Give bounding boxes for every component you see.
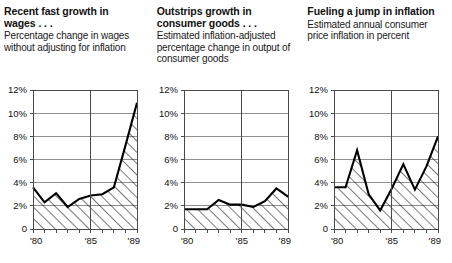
y-tick-label: 2% [315, 200, 329, 211]
y-tick-label: 2% [13, 200, 27, 211]
y-tick-label: 8% [164, 131, 178, 142]
y-tick-label: 10% [309, 108, 329, 119]
panel-subtitle: Percentage change in wages without adjus… [4, 30, 141, 53]
y-axis-labels-2: 02%4%6%8%10%12% [159, 84, 184, 234]
area-fill [33, 103, 137, 229]
chart-panel-consumer-goods: Outstrips growth in consumer goods . . .… [151, 0, 302, 263]
x-tick-label: '80 [181, 235, 193, 246]
y-axis-labels-3: 02%4%6%8%10%12% [309, 84, 334, 234]
series-area-1 [33, 103, 137, 229]
chart-area-consumer-goods: 02%4%6%8%10%12% '80'85'89 [151, 84, 302, 263]
y-tick-label: 4% [315, 177, 329, 188]
x-tick-label: '89 [128, 235, 140, 246]
x-tick-label: '80 [30, 235, 42, 246]
y-tick-label: 0 [323, 223, 328, 234]
y-tick-label: 6% [315, 154, 329, 165]
chart-panel-group: Recent fast growth in wages . . . Percen… [0, 0, 452, 263]
panel-title: Outstrips growth in consumer goods . . . [157, 6, 292, 29]
chart-area-inflation: 02%4%6%8%10%12% '80'85'89 [301, 84, 452, 263]
series-area-2 [184, 188, 288, 229]
panel-subtitle: Estimated inflation-adjusted percentage … [157, 30, 292, 64]
chart-panel-inflation: Fueling a jump in inflation Estimated an… [301, 0, 452, 263]
y-axis-labels-1: 02%4%6%8%10%12% [8, 84, 33, 234]
y-tick-label: 12% [309, 84, 329, 95]
x-axis-labels-1: '80'85'89 [30, 229, 140, 246]
x-axis-labels-2: '80'85'89 [181, 229, 291, 246]
y-tick-label: 6% [13, 154, 27, 165]
panel-title: Fueling a jump in inflation [307, 6, 442, 18]
x-tick-label: '89 [278, 235, 290, 246]
y-tick-label: 4% [13, 177, 27, 188]
y-tick-label: 10% [159, 108, 179, 119]
x-axis-labels-3: '80'85'89 [331, 229, 441, 246]
y-tick-label: 0 [22, 223, 27, 234]
chart-area-wages: 02%4%6%8%10%12% '80'85'89 [0, 84, 151, 263]
figure-root: Recent fast growth in wages . . . Percen… [0, 0, 452, 263]
panel-title: Recent fast growth in wages . . . [4, 6, 141, 29]
y-tick-label: 6% [164, 154, 178, 165]
x-tick-label: '85 [235, 235, 247, 246]
y-tick-label: 8% [315, 131, 329, 142]
panel-heading-wages: Recent fast growth in wages . . . Percen… [0, 0, 151, 53]
y-tick-label: 0 [172, 223, 177, 234]
y-tick-label: 8% [13, 131, 27, 142]
y-tick-label: 12% [8, 84, 28, 95]
chart-panel-wages: Recent fast growth in wages . . . Percen… [0, 0, 151, 263]
x-tick-label: '85 [85, 235, 97, 246]
panel-heading-inflation: Fueling a jump in inflation Estimated an… [301, 0, 452, 41]
y-tick-label: 2% [164, 200, 178, 211]
x-tick-label: '80 [331, 235, 343, 246]
y-tick-label: 10% [8, 108, 28, 119]
chart-svg-consumer-goods: 02%4%6%8%10%12% '80'85'89 [151, 84, 301, 263]
panel-subtitle: Estimated annual consumer price inflatio… [307, 19, 442, 42]
y-tick-label: 12% [159, 84, 179, 95]
panel-heading-consumer-goods: Outstrips growth in consumer goods . . .… [151, 0, 302, 64]
y-tick-label: 4% [164, 177, 178, 188]
x-tick-label: '89 [429, 235, 441, 246]
x-tick-label: '85 [386, 235, 398, 246]
chart-svg-inflation: 02%4%6%8%10%12% '80'85'89 [301, 84, 451, 263]
chart-svg-wages: 02%4%6%8%10%12% '80'85'89 [0, 84, 150, 263]
